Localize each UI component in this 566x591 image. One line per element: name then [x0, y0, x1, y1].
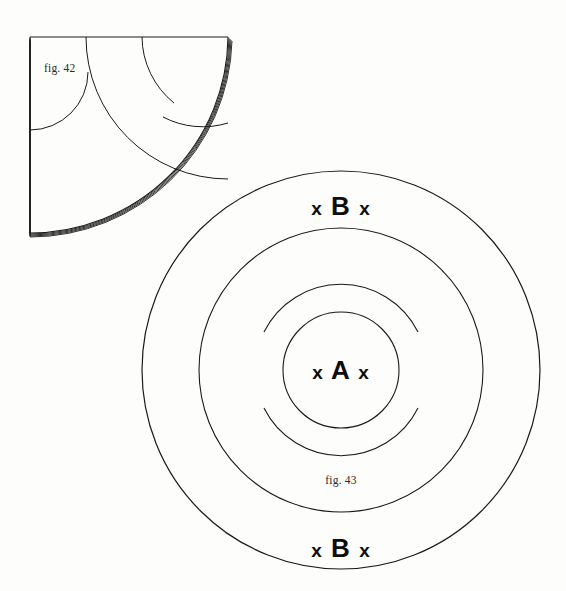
fig43-label-a-letter: A	[331, 355, 350, 385]
fig43-label-a-mark-right: x	[358, 362, 370, 383]
fig43-label-b-top-mark-left: x	[311, 198, 323, 219]
fig43-label-b-bottom-mark-left: x	[311, 540, 323, 561]
fig43-label-b-bottom-letter: B	[331, 533, 351, 563]
figures-canvas: fig. 42 x B x x A x fig. 43 x B x	[0, 0, 566, 591]
fig43-label-b-top-letter: B	[331, 191, 351, 221]
fig43-label-b-top-mark-right: x	[359, 198, 371, 219]
fig43-caption: fig. 43	[325, 474, 356, 487]
figure-plate: fig. 42 x B x x A x fig. 43 x B x	[0, 0, 566, 591]
page-background	[0, 0, 566, 591]
fig42-caption: fig. 42	[44, 62, 75, 75]
fig43-label-b-bottom-mark-right: x	[359, 540, 371, 561]
fig43-label-a-mark-left: x	[312, 362, 324, 383]
